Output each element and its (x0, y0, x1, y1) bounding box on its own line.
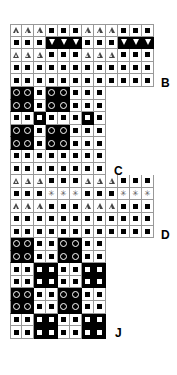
square-icon (70, 24, 82, 37)
square-icon (70, 74, 82, 87)
triangle-icon (10, 200, 22, 213)
square-icon (82, 74, 94, 87)
triangle-icon (10, 175, 22, 188)
square-icon (46, 49, 58, 62)
square-icon (142, 226, 154, 239)
white-square-icon (34, 263, 46, 276)
square-icon (58, 200, 70, 213)
square-icon (82, 87, 94, 100)
asterisk-icon (142, 188, 154, 201)
chart-row (10, 251, 154, 264)
square-icon (70, 213, 82, 226)
circle-icon (10, 100, 22, 113)
triangle-icon (22, 175, 34, 188)
square-icon (82, 238, 94, 251)
square-icon (106, 213, 118, 226)
triangle-icon (10, 24, 22, 37)
square-icon (10, 150, 22, 163)
chart-row (10, 288, 154, 301)
square-icon (34, 137, 46, 150)
square-icon (58, 163, 70, 176)
triangle-icon (34, 200, 46, 213)
square-icon (82, 125, 94, 138)
square-icon (94, 251, 106, 264)
square-icon (70, 263, 82, 276)
square-icon (46, 251, 58, 264)
white-square-icon (46, 314, 58, 327)
asterisk-icon (70, 188, 82, 201)
square-icon (82, 213, 94, 226)
square-icon (46, 24, 58, 37)
square-icon (22, 213, 34, 226)
circle-icon (22, 238, 34, 251)
square-icon (82, 150, 94, 163)
white-square-icon (82, 314, 94, 327)
square-icon (142, 74, 154, 87)
circle-icon (10, 137, 22, 150)
square-icon (106, 62, 118, 75)
square-icon (70, 62, 82, 75)
square-icon (82, 288, 94, 301)
chart-row (10, 301, 154, 314)
triangle-icon (106, 200, 118, 213)
chart-row (10, 49, 154, 62)
chart-row (10, 100, 154, 113)
chart-row (10, 213, 154, 226)
triangle-icon (82, 49, 94, 62)
square-icon (130, 24, 142, 37)
square-icon (34, 125, 46, 138)
square-icon (34, 288, 46, 301)
square-icon (34, 87, 46, 100)
circle-icon (58, 288, 70, 301)
square-icon (70, 87, 82, 100)
square-icon (34, 74, 46, 87)
white-square-icon (46, 276, 58, 289)
triangle-icon (106, 24, 118, 37)
triangle-icon (82, 24, 94, 37)
square-icon (94, 150, 106, 163)
square-icon (142, 24, 154, 37)
square-icon (22, 188, 34, 201)
circle-icon (58, 238, 70, 251)
circle-icon (22, 288, 34, 301)
circle-icon (58, 100, 70, 113)
square-icon (34, 37, 46, 50)
square-icon (10, 188, 22, 201)
square-icon (46, 213, 58, 226)
circle-icon (10, 238, 22, 251)
circle-icon (58, 137, 70, 150)
circle-icon (58, 301, 70, 314)
white-square-icon (82, 263, 94, 276)
square-icon (10, 163, 22, 176)
square-icon (34, 150, 46, 163)
square-icon (130, 175, 142, 188)
square-icon (118, 24, 130, 37)
square-icon (46, 175, 58, 188)
square-icon (46, 163, 58, 176)
square-icon (94, 137, 106, 150)
square-icon (118, 213, 130, 226)
square-icon (10, 276, 22, 289)
asterisk-icon (118, 188, 130, 201)
chart-row (10, 24, 154, 37)
section-label-c: C (114, 164, 123, 178)
chart-row (10, 326, 154, 339)
triangle-icon (22, 49, 34, 62)
square-icon (70, 49, 82, 62)
square-icon (82, 251, 94, 264)
square-icon (94, 188, 106, 201)
triangle-icon (34, 175, 46, 188)
square-icon (46, 62, 58, 75)
circle-icon (70, 251, 82, 264)
square-icon (46, 226, 58, 239)
square-icon (58, 150, 70, 163)
circle-icon (10, 288, 22, 301)
square-icon (142, 213, 154, 226)
square-icon (22, 276, 34, 289)
circle-icon (10, 301, 22, 314)
square-icon (142, 200, 154, 213)
chart-row (10, 263, 154, 276)
circle-icon (70, 288, 82, 301)
chart-row (10, 200, 154, 213)
square-icon (130, 74, 142, 87)
